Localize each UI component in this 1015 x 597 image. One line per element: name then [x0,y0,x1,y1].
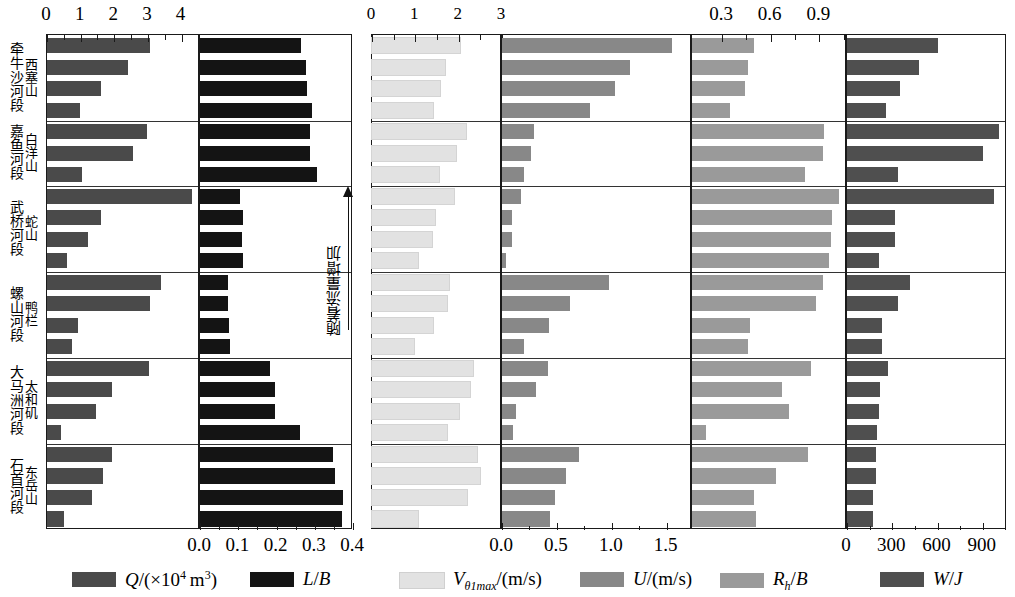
bar [372,296,447,311]
bar [692,361,811,376]
bar [200,103,312,118]
group-separator [692,272,845,273]
tick-label: 3 [142,4,152,23]
bar [502,146,531,161]
bar [502,210,512,225]
panel-Vt1max [371,34,501,529]
bar [47,81,101,96]
bar [692,382,782,397]
tick-label: 0.2 [264,535,288,554]
bar [47,468,103,483]
bar [372,490,467,505]
axis-tick [667,523,668,530]
group-label-1: 牵牛沙河段西塞山 [0,34,46,120]
axis-tick [353,523,354,530]
bar [372,382,470,397]
legend: Q/(×104 m3)L/BVθ1max/(m/s)U/(m/s)Rh/BW/J [0,560,1015,597]
figure-root: 牵牛沙河段西塞山嘉鱼河段白洋山武桥河段蛇山螺山河段鸭栏大马洲河段太和矶石首河段东… [0,0,1015,597]
axis-tick [372,35,373,42]
axis-tick [915,526,916,531]
tick-label: 0 [367,4,376,23]
bar [47,404,96,419]
axis-tick [97,35,98,40]
axis-tick [1005,526,1006,531]
axis-tick [415,35,416,42]
axis-tick [722,35,723,42]
legend-item-V: Vθ1max/(m/s) [400,568,542,594]
group-separator [200,358,351,359]
station-name: 白洋山 [24,133,39,172]
axis-tick [584,526,585,531]
bar [692,253,829,268]
axis-tick [795,35,796,40]
axis-tick [148,35,149,42]
bar [47,275,161,290]
group-separator [372,121,500,122]
group-separator [502,358,690,359]
axis-tick [639,526,640,531]
axis-tick [746,35,747,40]
bar [847,404,879,419]
group-separator [372,186,500,187]
axis-tick [200,523,201,530]
bar [372,361,473,376]
bar [502,318,549,333]
bar [47,167,82,182]
bar [47,447,112,462]
group-label-5: 大马洲河段太和矶 [0,357,46,443]
bar [847,167,898,182]
bar [372,167,439,182]
reach-name: 嘉鱼河段 [8,124,23,180]
bar [200,81,307,96]
axis-tick [847,523,848,530]
bar [200,382,275,397]
annotation-arrow-shaft [348,196,349,330]
bar [847,296,898,311]
bar [372,232,432,247]
bar [502,296,570,311]
annotation-arrow-head-icon [343,186,353,197]
bar [502,253,506,268]
bar [47,103,80,118]
bar [47,189,192,204]
tick-label: 0 [841,535,851,554]
panel-WJ [846,34,1006,529]
bar [372,275,449,290]
bar [847,38,938,53]
bar [372,253,418,268]
tick-label: 1.0 [599,535,623,554]
bar [502,167,524,182]
bar [502,382,536,397]
group-separator [502,272,690,273]
axis-tick [238,523,239,530]
bar [200,146,310,161]
group-label-2: 嘉鱼河段白洋山 [0,120,46,185]
axis-tick [437,35,438,40]
bar [47,124,147,139]
group-separator [692,186,845,187]
axis-tick [131,35,132,40]
bar [692,425,706,440]
legend-label-U: U/(m/s) [633,568,692,590]
group-separator [692,121,845,122]
bar [847,382,880,397]
group-separator [847,121,1005,122]
bar [502,339,524,354]
axis-tick [529,526,530,531]
bar [847,210,895,225]
legend-item-WJ: W/J [880,568,963,590]
axis-tick [960,526,961,531]
bar [502,124,534,139]
legend-swatch-WJ [880,572,924,587]
bar [847,511,873,526]
tick-label: 0.9 [807,4,831,23]
bar [200,361,270,376]
group-separator [47,121,198,122]
axis-tick [165,35,166,40]
group-separator [47,186,198,187]
bar [47,296,150,311]
bar [372,81,440,96]
legend-label-RB: Rh/B [773,568,808,594]
bar [200,490,343,505]
bar [692,490,754,505]
